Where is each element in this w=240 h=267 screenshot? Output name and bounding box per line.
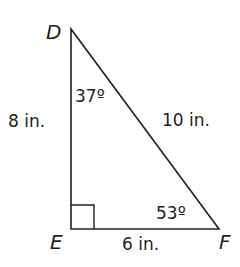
triangle-shape bbox=[0, 0, 240, 267]
side-label-ef: 6 in. bbox=[122, 236, 159, 253]
vertex-label-e: E bbox=[50, 232, 63, 252]
triangle-diagram: D E F 8 in. 6 in. 10 in. 37º 53º bbox=[0, 0, 240, 267]
angle-label-f: 53º bbox=[156, 205, 186, 222]
vertex-label-d: D bbox=[46, 22, 61, 42]
vertex-label-f: F bbox=[219, 232, 231, 252]
right-angle-marker-icon bbox=[71, 205, 94, 229]
side-label-df: 10 in. bbox=[162, 112, 210, 129]
side-label-de: 8 in. bbox=[8, 113, 45, 130]
angle-label-d: 37º bbox=[75, 88, 105, 105]
